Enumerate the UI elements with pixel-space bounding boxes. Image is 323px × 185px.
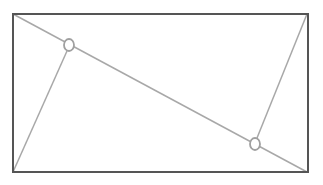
geometry-diagram	[0, 0, 323, 185]
line-diagonal	[13, 14, 307, 172]
line-top-right-to-point-2	[257, 14, 307, 138]
line-bottom-left-to-point-1	[13, 51, 67, 172]
point-2-marker	[250, 138, 260, 150]
point-1-marker	[64, 39, 74, 51]
